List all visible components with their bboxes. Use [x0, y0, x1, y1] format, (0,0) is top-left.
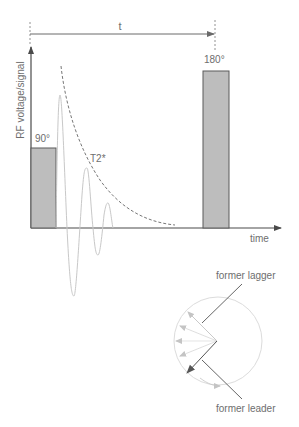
spin-phase-diagram	[174, 284, 262, 399]
pulse-180-label: 180°	[204, 54, 225, 65]
y-axis-label: RF voltage/signal	[15, 61, 26, 138]
leader-vector	[187, 341, 217, 373]
pulse-180	[203, 71, 229, 228]
interval-label: t	[118, 20, 121, 32]
pulse-90	[31, 148, 56, 228]
spin-echo-diagram: t RF voltage/signal time 90° 180° T2* fo…	[0, 0, 299, 427]
lagger-label: former lagger	[216, 270, 276, 281]
fid-signal	[56, 95, 113, 296]
t2-envelope	[61, 66, 175, 225]
leader-label: former leader	[216, 403, 276, 414]
pulse-90-label: 90°	[35, 133, 50, 144]
leader-pointer	[202, 360, 242, 399]
lagger-pointer	[202, 284, 242, 323]
x-axis-label: time	[250, 233, 269, 244]
interval-guides	[30, 20, 215, 50]
t2-label: T2*	[90, 153, 106, 164]
